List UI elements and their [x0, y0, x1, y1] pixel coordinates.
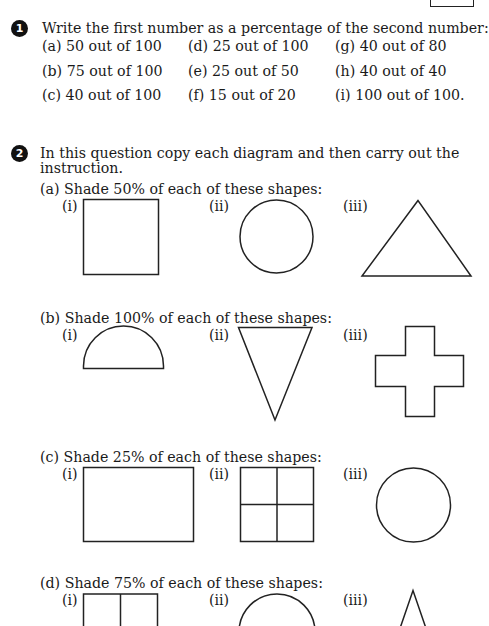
semicircle-shape — [84, 326, 164, 368]
inverted-triangle-shape — [239, 328, 313, 421]
halved-rectangle-shape — [84, 594, 158, 626]
circle-shape — [239, 594, 315, 626]
square-shape — [84, 200, 159, 275]
circle-shape — [240, 200, 313, 273]
cross-shape — [376, 327, 464, 417]
rectangle-shape — [84, 468, 194, 542]
triangle-shape — [396, 591, 430, 626]
quartered-square-shape — [241, 468, 314, 542]
circle-shape — [377, 468, 451, 542]
triangle-shape — [362, 201, 471, 277]
